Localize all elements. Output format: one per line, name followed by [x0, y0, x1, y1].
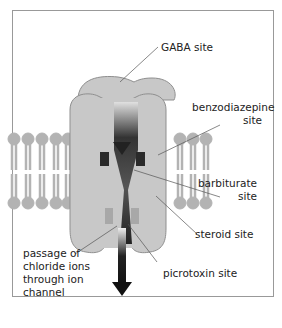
label-line: channel	[23, 286, 90, 299]
steroid-binding-block	[105, 208, 113, 224]
label-barbiturate-site: barbiturate site	[195, 177, 257, 203]
benzodiazepine-binding-block	[100, 152, 109, 166]
lipid-bilayer-left	[8, 133, 74, 209]
label-benzodiazepine-site: benzodiazepine site	[192, 101, 262, 127]
label-line: site	[192, 114, 262, 127]
steroid-binding-block-right	[131, 208, 139, 224]
benzodiazepine-binding-block-right	[136, 152, 145, 166]
label-line: passage of	[23, 247, 90, 260]
label-steroid-site: steroid site	[195, 228, 253, 241]
label-line: barbiturate	[195, 177, 257, 190]
label-line: chloride ions	[23, 260, 90, 273]
label-line: through ion	[23, 273, 90, 286]
label-picrotoxin-site: picrotoxin site	[163, 267, 237, 280]
label-chloride-passage: passage of chloride ions through ion cha…	[23, 247, 90, 299]
label-line: benzodiazepine	[192, 101, 262, 114]
label-gaba-site: GABA site	[161, 41, 213, 54]
label-line: site	[195, 190, 257, 203]
lipid-heads-top	[8, 133, 74, 145]
